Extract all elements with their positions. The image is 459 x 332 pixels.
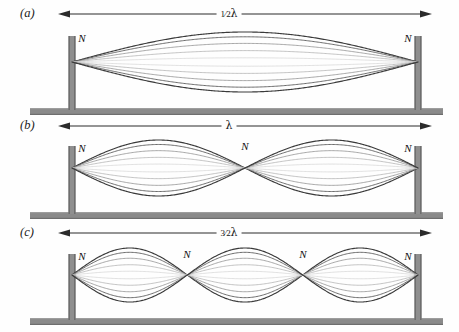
dimension-arrow xyxy=(58,11,432,18)
panel-c-dimension-fraction: 3⁄2 xyxy=(221,228,231,238)
node-label: N xyxy=(183,248,190,260)
dimension-arrow xyxy=(58,230,432,237)
wave-trace xyxy=(72,258,418,291)
wave-trace xyxy=(72,258,418,291)
wave-trace xyxy=(72,43,418,62)
standing-waves-figure: (a) 1⁄2λ NN (b) λ NNN (c) 3⁄2λ NNNN xyxy=(0,0,459,332)
wave-trace xyxy=(72,62,418,87)
dimension-arrow-head-right xyxy=(420,230,432,237)
wave-traces xyxy=(72,32,418,92)
wave-trace xyxy=(72,37,418,62)
panel-c: (c) 3⁄2λ NNNN xyxy=(0,219,459,332)
wave-trace xyxy=(72,248,418,302)
support-post-left xyxy=(69,146,76,214)
wave-trace xyxy=(72,58,418,62)
wave-trace xyxy=(72,271,418,279)
panel-c-dimension-lambda: λ xyxy=(230,226,237,239)
wave-trace xyxy=(72,252,418,297)
wave-trace xyxy=(72,252,418,297)
dimension-arrow-head-left xyxy=(58,230,70,237)
node-label: N xyxy=(404,142,411,154)
wave-traces xyxy=(72,248,418,302)
panel-a: (a) 1⁄2λ NN xyxy=(0,0,459,113)
node-label: N xyxy=(78,32,85,44)
node-label: N xyxy=(241,140,248,152)
dimension-arrow-head-left xyxy=(58,11,70,18)
support-post-right xyxy=(415,146,422,214)
wave-trace xyxy=(72,62,418,81)
support-post-right xyxy=(415,36,422,110)
panel-a-dimension-lambda: λ xyxy=(230,7,237,20)
panel-a-dimension-fraction: 1⁄2 xyxy=(221,9,231,19)
panel-a-dimension-label: 1⁄2λ xyxy=(217,8,242,20)
panel-b-dimension-label: λ xyxy=(222,120,237,132)
node-label: N xyxy=(404,250,411,262)
wave-trace xyxy=(72,248,418,302)
support-base-bar xyxy=(30,212,443,219)
dimension-arrow-head-left xyxy=(58,123,70,130)
dimension-arrow-head-right xyxy=(420,11,432,18)
wave-trace xyxy=(72,271,418,279)
support-base-bar xyxy=(30,318,443,325)
panel-b-dimension-lambda: λ xyxy=(226,119,233,132)
node-label: N xyxy=(299,248,306,260)
node-label: N xyxy=(78,250,85,262)
node-label: N xyxy=(404,32,411,44)
wave-trace xyxy=(72,265,418,286)
panel-c-dimension-label: 3⁄2λ xyxy=(217,227,242,239)
node-label: N xyxy=(78,142,85,154)
support-post-left xyxy=(69,254,76,320)
wave-trace xyxy=(72,62,418,66)
panel-b: (b) λ NNN xyxy=(0,113,459,219)
wave-trace xyxy=(72,265,418,286)
dimension-arrow xyxy=(58,123,432,130)
dimension-arrow-head-right xyxy=(420,123,432,130)
support-post-left xyxy=(69,36,76,110)
support-post-right xyxy=(415,254,422,320)
